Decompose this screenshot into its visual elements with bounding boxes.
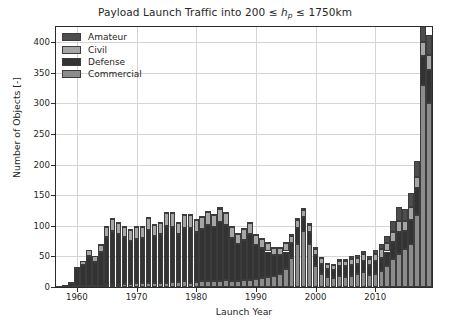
bar-segment-defense bbox=[211, 227, 216, 281]
bar-stack[interactable] bbox=[241, 27, 246, 287]
bar-segment-commercial bbox=[337, 276, 342, 287]
title-operator-1: ≤ bbox=[269, 6, 281, 18]
bar-stack[interactable] bbox=[313, 27, 318, 287]
bar-segment-defense bbox=[408, 220, 413, 244]
bar-stack[interactable] bbox=[325, 27, 330, 287]
bar-segment-defense bbox=[319, 264, 324, 274]
y-axis-tick-mark bbox=[51, 73, 55, 74]
bar-stack[interactable] bbox=[253, 27, 258, 287]
bar-stack[interactable] bbox=[283, 27, 288, 287]
bar-stack[interactable] bbox=[152, 27, 157, 287]
bar-segment-amateur bbox=[301, 208, 306, 210]
bar-stack[interactable] bbox=[295, 27, 300, 287]
bar-stack[interactable] bbox=[194, 27, 199, 287]
bar-stack[interactable] bbox=[343, 27, 348, 287]
bar-segment-civil bbox=[283, 243, 288, 252]
bar-stack[interactable] bbox=[396, 27, 401, 287]
bar-segment-defense bbox=[277, 255, 282, 273]
bar-segment-defense bbox=[396, 232, 401, 254]
bar-segment-defense bbox=[337, 266, 342, 276]
bar-stack[interactable] bbox=[229, 27, 234, 287]
bar-stack[interactable] bbox=[170, 27, 175, 287]
bar-stack[interactable] bbox=[265, 27, 270, 287]
bar-stack[interactable] bbox=[337, 27, 342, 287]
bar-segment-commercial bbox=[289, 258, 294, 287]
bar-stack[interactable] bbox=[199, 27, 204, 287]
bar-segment-defense bbox=[229, 238, 234, 281]
bar-stack[interactable] bbox=[426, 27, 431, 287]
bar-stack[interactable] bbox=[235, 27, 240, 287]
bar-stack[interactable] bbox=[361, 27, 366, 287]
bar-segment-defense bbox=[116, 234, 121, 284]
bar-segment-amateur bbox=[271, 247, 276, 249]
bar-stack[interactable] bbox=[247, 27, 252, 287]
bar-segment-commercial bbox=[295, 244, 300, 287]
bar-segment-commercial bbox=[128, 284, 133, 287]
bar-stack[interactable] bbox=[164, 27, 169, 287]
bar-stack[interactable] bbox=[217, 27, 222, 287]
bar-segment-amateur bbox=[223, 212, 228, 214]
bar-stack[interactable] bbox=[56, 27, 61, 287]
bar-stack[interactable] bbox=[331, 27, 336, 287]
bar-stack[interactable] bbox=[205, 27, 210, 287]
bar-stack[interactable] bbox=[301, 27, 306, 287]
bar-stack[interactable] bbox=[355, 27, 360, 287]
bar-stack[interactable] bbox=[259, 27, 264, 287]
bar-stack[interactable] bbox=[319, 27, 324, 287]
bar-segment-defense bbox=[402, 231, 407, 249]
bar-stack[interactable] bbox=[223, 27, 228, 287]
bar-stack[interactable] bbox=[420, 27, 425, 287]
bar-segment-commercial bbox=[80, 286, 85, 288]
bar-stack[interactable] bbox=[379, 27, 384, 287]
bar-stack[interactable] bbox=[211, 27, 216, 287]
bar-stack[interactable] bbox=[390, 27, 395, 287]
bar-stack[interactable] bbox=[307, 27, 312, 287]
bar-stack[interactable] bbox=[146, 27, 151, 287]
bar-segment-amateur bbox=[176, 222, 181, 224]
bar-segment-defense bbox=[146, 230, 151, 283]
bar-segment-amateur bbox=[289, 234, 294, 236]
bar-stack[interactable] bbox=[402, 27, 407, 287]
bar-segment-civil bbox=[420, 42, 425, 55]
bar-stack[interactable] bbox=[277, 27, 282, 287]
bar-segment-commercial bbox=[283, 269, 288, 287]
bar-stack[interactable] bbox=[373, 27, 378, 287]
legend-item-civil[interactable]: Civil bbox=[62, 43, 142, 55]
bar-stack[interactable] bbox=[271, 27, 276, 287]
y-axis-tick-label: 0 bbox=[20, 282, 50, 292]
bar-stack[interactable] bbox=[182, 27, 187, 287]
bar-segment-amateur bbox=[217, 207, 222, 209]
x-axis-tick-label: 2000 bbox=[294, 292, 338, 302]
bar-segment-amateur bbox=[188, 214, 193, 216]
bar-segment-defense bbox=[152, 236, 157, 284]
bar-segment-civil bbox=[414, 177, 419, 188]
bar-stack[interactable] bbox=[408, 27, 413, 287]
bar-segment-commercial bbox=[182, 281, 187, 287]
bar-segment-defense bbox=[325, 269, 330, 278]
legend-label: Defense bbox=[88, 57, 125, 67]
bar-segment-amateur bbox=[199, 216, 204, 218]
bar-stack[interactable] bbox=[414, 27, 419, 287]
bar-segment-commercial bbox=[146, 283, 151, 287]
bar-segment-civil bbox=[361, 254, 366, 261]
bar-stack[interactable] bbox=[176, 27, 181, 287]
legend-item-commercial[interactable]: Commercial bbox=[62, 68, 142, 80]
bar-segment-defense bbox=[134, 239, 139, 283]
bar-segment-civil bbox=[134, 227, 139, 239]
bar-segment-amateur bbox=[241, 228, 246, 230]
y-axis-tick-mark bbox=[51, 165, 55, 166]
bar-stack[interactable] bbox=[158, 27, 163, 287]
bar-stack[interactable] bbox=[349, 27, 354, 287]
bar-segment-commercial bbox=[396, 254, 401, 287]
bar-segment-civil bbox=[390, 232, 395, 242]
bar-segment-amateur bbox=[104, 226, 109, 228]
legend-item-amateur[interactable]: Amateur bbox=[62, 31, 142, 43]
bar-stack[interactable] bbox=[188, 27, 193, 287]
bar-stack[interactable] bbox=[384, 27, 389, 287]
bar-segment-defense bbox=[223, 225, 228, 280]
bar-stack[interactable] bbox=[367, 27, 372, 287]
bar-segment-defense bbox=[110, 231, 115, 285]
bar-stack[interactable] bbox=[289, 27, 294, 287]
legend-item-defense[interactable]: Defense bbox=[62, 56, 142, 68]
bar-segment-defense bbox=[205, 225, 210, 281]
